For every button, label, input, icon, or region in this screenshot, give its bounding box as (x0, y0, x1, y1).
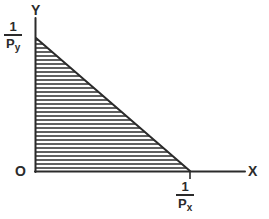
y-intercept-numerator: 1 (4, 20, 22, 34)
y-intercept-label: 1 Py (4, 20, 22, 53)
plot-canvas (0, 0, 269, 219)
y-intercept-denominator: Py (4, 36, 22, 53)
x-intercept-numerator: 1 (176, 180, 194, 194)
y-axis-label: Y (31, 3, 40, 17)
x-intercept-label: 1 Px (176, 180, 194, 213)
x-axis-label: X (248, 164, 257, 178)
x-intercept-denominator: Px (176, 196, 194, 213)
budget-constraint-diagram: Y X O 1 Py 1 Px (0, 0, 269, 219)
x-intercept-denominator-subscript: x (187, 202, 193, 213)
y-intercept-denominator-base: P (6, 36, 15, 51)
x-intercept-denominator-base: P (178, 196, 187, 211)
y-intercept-denominator-subscript: y (15, 42, 21, 53)
origin-label: O (15, 164, 26, 178)
